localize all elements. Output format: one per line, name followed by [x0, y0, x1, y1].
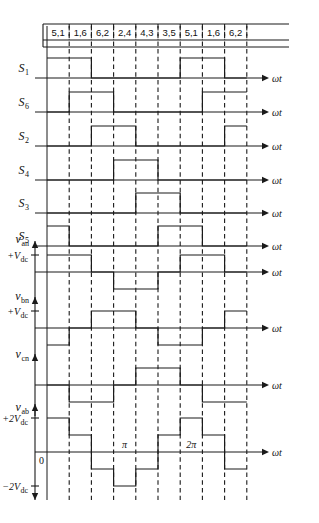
waveform-trace-van: ωtvan+Vdc [7, 232, 282, 303]
axis-label-omega-t: ωt [272, 241, 282, 252]
segment-gridlines [47, 26, 247, 500]
level-label-vab: −2Vdc [2, 481, 28, 495]
axis-arrow-S2 [262, 143, 269, 149]
axis-label-omega-t: ωt [272, 141, 282, 152]
waveform-trace-S3: ωtS3 [19, 193, 283, 219]
segment-header-label: 5,1 [51, 27, 64, 38]
axis-arrow-S6 [262, 109, 269, 115]
segment-header-label: 1,6 [207, 27, 220, 38]
trace-label-vbn: vbn [15, 289, 29, 305]
segment-header-label: 1,6 [74, 27, 87, 38]
axis-label-omega-t: ωt [272, 107, 282, 118]
axis-arrow-vbn [262, 325, 269, 331]
waveform-trace-S2: ωtS2 [19, 126, 283, 152]
phase-annotation-π: π [122, 439, 128, 450]
axis-arrow-vcn [262, 382, 269, 388]
axis-arrow-S3 [262, 210, 269, 216]
axis-label-omega-t: ωt [272, 380, 282, 391]
waveform-trace-S5: ωtS5 [19, 226, 283, 252]
waveform-path-vbn [47, 311, 247, 345]
trace-label-S2: S2 [19, 129, 30, 145]
segment-header-label: 6,2 [96, 27, 109, 38]
trace-label-S3: S3 [19, 196, 30, 212]
waveform-path-S4 [47, 160, 247, 180]
level-label-zero: 0 [39, 455, 44, 466]
vaxis-arrow-vbn [32, 297, 38, 304]
vaxis-arrow-van [32, 241, 38, 248]
waveform-trace-vab: ωtvab+2Vdc−2Vdc0 [2, 400, 282, 500]
waveform-trace-vbn: ωtvbn+Vdc [7, 289, 282, 359]
axis-label-omega-t: ωt [272, 73, 282, 84]
axis-arrow-vab [262, 449, 269, 455]
trace-label-vcn: vcn [16, 347, 29, 363]
segment-header-label: 6,2 [229, 27, 242, 38]
segment-header-label: 2,4 [118, 27, 131, 38]
axis-label-omega-t: ωt [272, 267, 282, 278]
trace-label-S6: S6 [19, 95, 30, 111]
segment-header-label: 4,3 [140, 27, 153, 38]
waveform-trace-vcn: ωtvcn [16, 347, 282, 416]
waveform-canvas: 5,11,66,22,44,33,55,11,66,2 ωtS1ωtS6ωtS2… [0, 0, 319, 523]
level-label-vbn: +Vdc [7, 306, 28, 320]
vaxis-arrow-down-vab [32, 493, 38, 500]
axis-label-omega-t: ωt [272, 175, 282, 186]
waveform-path-S6 [47, 92, 247, 112]
waveform-path-S2 [47, 126, 247, 146]
axis-arrow-S4 [262, 177, 269, 183]
vaxis-arrow-vcn [32, 354, 38, 361]
waveform-path-S1 [47, 58, 247, 78]
waveform-trace-S6: ωtS6 [19, 92, 283, 118]
trace-label-S1: S1 [19, 61, 30, 77]
phase-annotations: π2π [122, 439, 197, 450]
vaxis-arrow-vab [32, 404, 38, 411]
phase-annotation-2π: 2π [186, 439, 197, 450]
waveform-trace-S1: ωtS1 [19, 58, 283, 84]
axis-arrow-S1 [262, 75, 269, 81]
axis-label-omega-t: ωt [272, 447, 282, 458]
waveform-path-S3 [47, 193, 247, 213]
axis-arrow-van [262, 269, 269, 275]
segment-header-row: 5,11,66,22,44,33,55,11,66,2 [43, 24, 289, 47]
axis-label-omega-t: ωt [272, 323, 282, 334]
axis-arrow-S5 [262, 243, 269, 249]
axis-label-omega-t: ωt [272, 208, 282, 219]
waveform-path-S5 [47, 226, 247, 246]
segment-header-label: 3,5 [162, 27, 175, 38]
waveform-figure: 5,11,66,22,44,33,55,11,66,2 ωtS1ωtS6ωtS2… [0, 0, 319, 523]
waveform-traces: ωtS1ωtS6ωtS2ωtS4ωtS3ωtS5ωtvan+Vdcωtvbn+V… [2, 58, 282, 500]
level-label-van: +Vdc [7, 250, 28, 264]
trace-label-S4: S4 [19, 163, 30, 179]
segment-header-label: 5,1 [185, 27, 198, 38]
waveform-trace-S4: ωtS4 [19, 160, 283, 186]
